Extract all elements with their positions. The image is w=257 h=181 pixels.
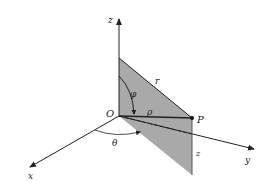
theta-arc (95, 130, 140, 135)
theta-label: θ (112, 138, 118, 148)
phi-label: φ (130, 89, 137, 99)
y-axis-label: y (244, 155, 251, 165)
point-p-label: P (196, 114, 204, 125)
z-height-label: z (195, 149, 201, 158)
z-axis-label: z (107, 15, 113, 25)
coordinate-diagram: z x y O P r ρ φ θ z (0, 0, 257, 181)
x-axis (30, 116, 119, 167)
point-p-dot (190, 116, 194, 120)
rho-label: ρ (146, 107, 153, 117)
x-axis-label: x (28, 171, 33, 181)
r-label: r (155, 76, 160, 86)
origin-label: O (106, 108, 114, 119)
